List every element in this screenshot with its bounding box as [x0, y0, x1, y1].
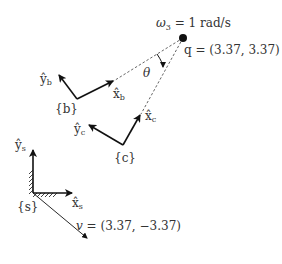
frame-c: ŷc x̂c {c}: [73, 109, 157, 165]
y-s-label: ŷs: [14, 138, 26, 153]
frame-b: ŷb x̂b {b}: [39, 72, 125, 116]
frame-s: ŷs x̂s {s}: [14, 138, 83, 214]
omega-label: ω3 = 1 rad/s: [156, 16, 231, 32]
x-s-label: x̂s: [72, 196, 83, 211]
frames-diagram: θ ω3 = 1 rad/s q = (3.37, 3.37) ŷb x̂b {…: [0, 0, 282, 264]
x-b-label: x̂b: [113, 87, 125, 102]
b-frame-label: {b}: [55, 102, 78, 116]
x-b-axis-arrow: [77, 81, 113, 99]
x-c-label: x̂c: [145, 109, 157, 124]
y-c-label: ŷc: [73, 122, 86, 137]
point-q-dot: [179, 34, 187, 42]
c-frame-label: {c}: [114, 151, 136, 165]
x-c-axis-arrow: [123, 115, 140, 145]
s-frame-label: {s}: [17, 200, 38, 214]
y-b-label: ŷb: [39, 72, 52, 87]
q-label: q = (3.37, 3.37): [184, 43, 280, 57]
velocity-vector: v = (3.37, −3.37): [33, 193, 181, 238]
point-q: ω3 = 1 rad/s q = (3.37, 3.37): [156, 16, 280, 57]
y-b-axis-arrow: [59, 75, 77, 99]
theta-angle: θ: [143, 54, 163, 80]
v-label: v = (3.37, −3.37): [76, 219, 181, 233]
y-c-axis-arrow: [89, 125, 123, 145]
theta-label: θ: [143, 66, 151, 80]
